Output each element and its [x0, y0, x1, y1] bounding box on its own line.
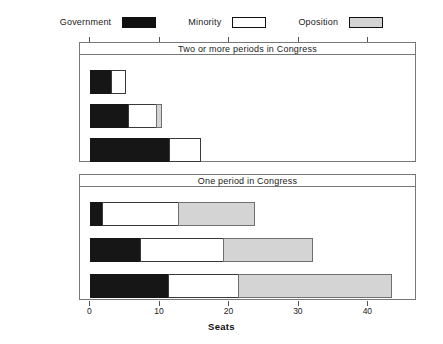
plot-area-bottom: ReelectedNot ReelectedDid not run	[80, 188, 415, 299]
stacked-bar	[90, 202, 255, 226]
plot-area-top: ReelectedNot ReelectedDid not run	[80, 56, 415, 161]
legend-entry-oposition: Oposition	[298, 17, 383, 28]
stacked-bar	[90, 104, 161, 128]
bar-row: Reelected	[80, 202, 415, 226]
bar-segment-oposition	[223, 238, 313, 262]
bar-row: Not Reelected	[80, 238, 415, 262]
panel-strip-header-top: Two or more periods in Congress	[79, 42, 416, 55]
legend-label: Oposition	[298, 17, 338, 27]
bar-segment-oposition	[178, 202, 255, 226]
x-tick-label-20: 20	[224, 306, 233, 316]
bar-segment-minority	[140, 238, 224, 262]
legend-entry-government: Government	[60, 17, 157, 28]
x-axis-title: Seats	[0, 321, 443, 332]
bar-segment-minority	[128, 104, 157, 128]
bar-row: Did not run	[80, 274, 415, 298]
bar-segment-government	[90, 70, 112, 94]
bar-segment-minority	[102, 202, 179, 226]
legend-swatch-minority	[232, 17, 266, 28]
stacked-bar	[90, 238, 313, 262]
legend-swatch-government	[122, 17, 156, 28]
x-tick-label-40: 40	[363, 306, 372, 316]
bar-segment-minority	[168, 274, 238, 298]
panel-one-period: One period in Congress ReelectedNot Reel…	[79, 174, 416, 300]
bar-segment-minority	[169, 138, 201, 162]
bar-segment-government	[90, 274, 169, 298]
bar-segment-oposition	[238, 274, 392, 298]
x-tick-label-10: 10	[154, 306, 163, 316]
bar-segment-minority	[111, 70, 126, 94]
legend-label: Minority	[188, 17, 221, 27]
panel-strip-header-bottom: One period in Congress	[79, 174, 416, 187]
bar-segment-government	[90, 104, 129, 128]
bar-row: Did not run	[80, 138, 415, 162]
stacked-bar	[90, 274, 391, 298]
legend-label: Government	[60, 17, 112, 27]
bar-segment-government	[90, 238, 141, 262]
x-tick-label-30: 30	[293, 306, 302, 316]
panel-strip-label-bottom: One period in Congress	[198, 176, 297, 186]
bar-row: Not Reelected	[80, 104, 415, 128]
panel-two-or-more-periods: Two or more periods in Congress Reelecte…	[79, 42, 416, 162]
stacked-bar	[90, 138, 200, 162]
bar-segment-government	[90, 138, 170, 162]
panel-strip-label-top: Two or more periods in Congress	[178, 44, 317, 54]
stacked-bar	[90, 70, 126, 94]
bar-row: Reelected	[80, 70, 415, 94]
bar-segment-oposition	[156, 104, 162, 128]
x-tick-label-0: 0	[87, 306, 92, 316]
stacked-bar-chart: GovernmentMinorityOposition Two or more …	[0, 0, 443, 344]
chart-legend: GovernmentMinorityOposition	[0, 12, 443, 32]
legend-entry-minority: Minority	[188, 17, 266, 28]
x-axis-tick-labels: 010203040	[79, 306, 416, 318]
legend-swatch-oposition	[349, 17, 383, 28]
